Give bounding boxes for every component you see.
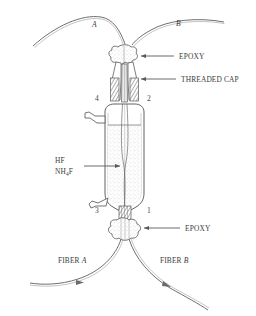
fiber-b-bottom-path [129,239,209,311]
label-port-1: 1 [147,206,151,215]
label-fiber-b-top: B [176,19,181,28]
label-port-3: 3 [95,206,99,215]
label-etchant-line1: HF [55,156,65,165]
label-port-2: 2 [147,94,151,103]
figure-canvas: A B EPOXY THREADED CAP HF NH4F EPOXY FIB… [0,0,256,316]
apparatus-diagram: A B EPOXY THREADED CAP HF NH4F EPOXY FIB… [0,0,256,316]
label-etchant-line2: NH4F [55,167,73,177]
threaded-cap [111,62,139,102]
label-fiber-a-bottom: FIBER A [58,256,87,265]
label-fiber-b-bottom: FIBER B [160,256,189,265]
label-epoxy-bottom: EPOXY [185,224,211,233]
label-fiber-a-top: A [91,20,97,29]
label-epoxy-top: EPOXY [179,52,205,61]
label-port-4: 4 [95,94,99,103]
fiber-a-top-path [33,17,125,48]
epoxy-blob-top [109,45,138,65]
epoxy-blob-bottom [108,218,140,241]
port-4-sidearm [85,112,105,123]
label-threaded-cap: THREADED CAP [181,75,239,84]
